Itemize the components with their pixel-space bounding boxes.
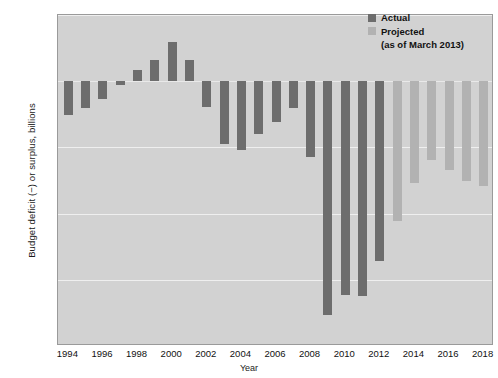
legend-swatch-actual-icon xyxy=(368,14,376,22)
bar xyxy=(150,60,159,81)
gridline xyxy=(58,280,492,281)
bar xyxy=(289,81,298,108)
bar xyxy=(445,81,454,170)
bar xyxy=(237,81,246,149)
x-tick-label: 2018 xyxy=(463,348,498,359)
bar xyxy=(410,81,419,183)
legend-label-projected: Projected xyxy=(381,26,424,37)
bar xyxy=(358,81,367,296)
bar xyxy=(133,70,142,81)
plot-inner xyxy=(58,15,492,344)
plot-area xyxy=(57,14,493,345)
bar xyxy=(168,42,177,81)
bar xyxy=(202,81,211,107)
bar xyxy=(323,81,332,315)
bar xyxy=(341,81,350,295)
chart-figure: Budget deficit (−) or surplus, billions … xyxy=(0,0,498,378)
bar xyxy=(427,81,436,160)
bar xyxy=(479,81,488,186)
bar xyxy=(64,81,73,115)
bar xyxy=(81,81,90,108)
bar xyxy=(306,81,315,157)
legend-note: (as of March 2013) xyxy=(381,39,464,50)
bar xyxy=(116,81,125,85)
y-axis-title: Budget deficit (−) or surplus, billions xyxy=(26,66,37,296)
legend-swatch-projected-icon xyxy=(368,27,376,35)
bar xyxy=(254,81,263,134)
legend-item-actual: Actual xyxy=(368,12,464,23)
bar xyxy=(375,81,384,261)
bar xyxy=(185,60,194,81)
gridline xyxy=(58,214,492,215)
bar xyxy=(462,81,471,181)
bar xyxy=(220,81,229,144)
bar xyxy=(393,81,402,221)
x-axis-title: Year xyxy=(0,363,498,373)
bar xyxy=(272,81,281,122)
legend: Actual Projected (as of March 2013) xyxy=(368,12,464,50)
legend-label-actual: Actual xyxy=(381,12,410,23)
legend-item-projected: Projected xyxy=(368,26,464,37)
bar xyxy=(98,81,107,99)
